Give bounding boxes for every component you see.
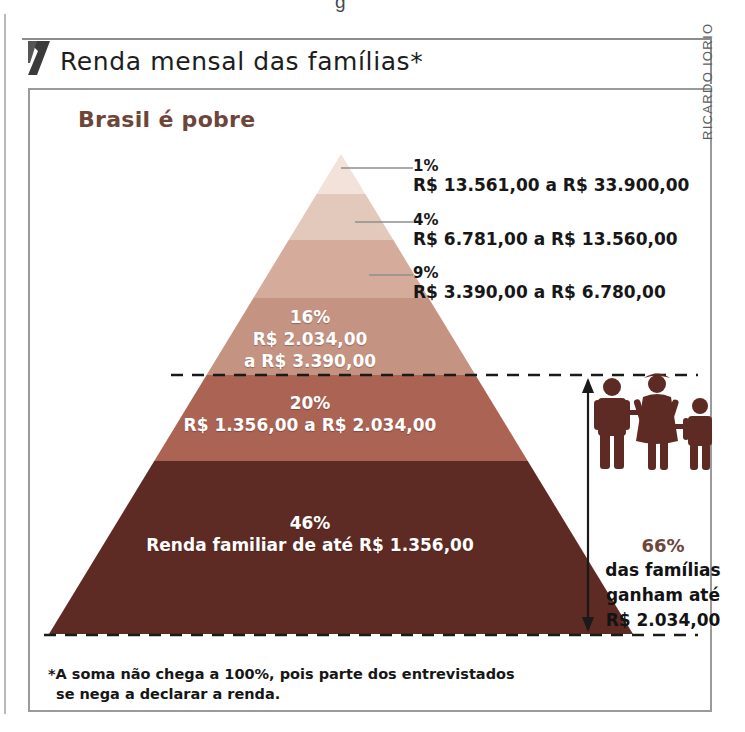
bracket-annotation: 66% das famílias ganham até R$ 2.034,00	[604, 533, 722, 633]
band-percent: 20%	[150, 392, 470, 414]
band-percent: 16%	[195, 306, 425, 328]
footnote-line1: *A soma não chega a 100%, pois parte dos…	[48, 664, 515, 684]
callout-range: R$ 6.781,00 a R$ 13.560,00	[413, 229, 678, 250]
bookmark-flag-icon	[28, 41, 50, 75]
bracket-line1: das famílias	[604, 558, 722, 583]
infographic-page: g Renda mensal das famílias* Brasil é po…	[0, 0, 745, 732]
callout-percent: 9%	[413, 264, 666, 282]
bracket-line3: R$ 2.034,00	[604, 608, 722, 633]
callout-9pct: 9% R$ 3.390,00 a R$ 6.780,00	[413, 264, 666, 303]
callout-4pct: 4% R$ 6.781,00 a R$ 13.560,00	[413, 211, 678, 250]
callout-percent: 1%	[413, 157, 689, 175]
callout-range: R$ 3.390,00 a R$ 6.780,00	[413, 282, 666, 303]
page-gutter-rule	[4, 14, 6, 714]
cut-off-text-fragment: g	[335, 0, 347, 13]
footnote: *A soma não chega a 100%, pois parte dos…	[48, 664, 515, 704]
band-range-line1: R$ 1.356,00 a R$ 2.034,00	[150, 414, 470, 436]
family-pictogram-icon	[594, 374, 712, 471]
callout-percent: 4%	[413, 211, 678, 229]
band-label-20pct: 20% R$ 1.356,00 a R$ 2.034,00	[150, 392, 470, 436]
bracket-line2: ganham até	[604, 583, 722, 608]
band-range-line2: a R$ 3.390,00	[195, 350, 425, 372]
band-range-line1: R$ 2.034,00	[195, 328, 425, 350]
footnote-line2: se nega a declarar a renda.	[48, 684, 515, 704]
band-range-line1: Renda familiar de até R$ 1.356,00	[110, 534, 510, 556]
page-title: Renda mensal das famílias*	[60, 47, 423, 76]
band-label-16pct: 16% R$ 2.034,00 a R$ 3.390,00	[195, 306, 425, 372]
callout-range: R$ 13.561,00 a R$ 33.900,00	[413, 175, 689, 196]
bracket-percent: 66%	[604, 533, 722, 558]
callout-1pct: 1% R$ 13.561,00 a R$ 33.900,00	[413, 157, 689, 196]
band-label-46pct: 46% Renda familiar de até R$ 1.356,00	[110, 512, 510, 556]
band-percent: 46%	[110, 512, 510, 534]
photo-credit: RICARDO IORIO	[700, 0, 715, 140]
